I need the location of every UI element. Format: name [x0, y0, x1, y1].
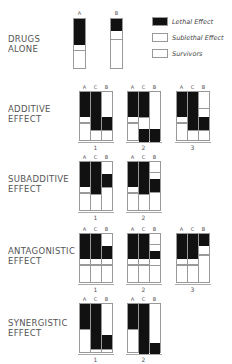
column-header: B: [101, 296, 112, 302]
legend-label: Survivors: [172, 50, 202, 58]
lethal-segment: [102, 335, 112, 349]
survivor-divider: [91, 349, 101, 350]
survivor-divider: [139, 194, 149, 195]
panel-baseline: [126, 142, 162, 143]
column-header: C: [90, 154, 101, 160]
panel-baseline: [126, 284, 162, 285]
survivor-divider: [199, 130, 209, 131]
lethal-segment: [139, 162, 149, 194]
row-label-2: EFFECT: [8, 328, 41, 338]
lethal-segment: [139, 234, 149, 259]
column-header: B: [198, 226, 209, 232]
lethal-segment: [199, 234, 209, 246]
column-header: A: [176, 84, 187, 90]
lethal-segment: [188, 92, 198, 130]
column-header: B: [149, 84, 160, 90]
column-header: C: [138, 226, 149, 232]
column-header: A: [127, 154, 138, 160]
panel-number: 3: [176, 144, 209, 151]
survivor-divider: [150, 192, 160, 193]
panel-column: [149, 91, 161, 141]
panel-column: [101, 91, 113, 141]
row-label-2: EFFECT: [8, 256, 41, 266]
lethal-segment: [80, 162, 90, 187]
panel-number: 1: [79, 356, 112, 363]
column-header: A: [79, 84, 90, 90]
survivor-divider: [80, 265, 90, 266]
lethal-segment: [177, 92, 187, 117]
column-header: C: [187, 226, 198, 232]
row-label: SYNERGISTIC: [8, 318, 68, 328]
survivor-divider: [102, 187, 112, 188]
legend-swatch: [152, 33, 168, 42]
lethal-segment: [91, 162, 101, 194]
survivor-divider: [128, 193, 138, 194]
legend-label: Lethal Effect: [172, 18, 213, 26]
survivor-divider: [128, 265, 138, 266]
lethal-segment: [128, 162, 138, 187]
sublethal-divider: [150, 172, 160, 173]
lethal-segment: [80, 304, 90, 329]
survivor-divider: [80, 123, 90, 124]
column-header: B: [101, 154, 112, 160]
panel-number: 2: [127, 356, 160, 363]
panel-column: [149, 233, 161, 283]
column-header: B: [101, 226, 112, 232]
survivor-divider: [102, 349, 112, 350]
panel-baseline: [175, 142, 211, 143]
lethal-segment: [150, 251, 160, 259]
column-header: C: [90, 296, 101, 302]
panel-number: 1: [79, 144, 112, 151]
column-header: A: [176, 226, 187, 232]
bar-header: A: [74, 10, 85, 16]
lethal-segment: [177, 234, 187, 259]
row-label-drugs-alone: DRUGS: [8, 34, 40, 44]
row-label-2: EFFECT: [8, 184, 41, 194]
panel-baseline: [78, 142, 114, 143]
drug-bar: [110, 18, 123, 69]
survivor-divider: [177, 265, 187, 266]
row-label: ANTAGONISTIC: [8, 246, 75, 256]
column-header: C: [138, 296, 149, 302]
lethal-segment: [188, 234, 198, 259]
lethal-segment: [80, 234, 90, 259]
panel-baseline: [78, 284, 114, 285]
column-header: B: [101, 84, 112, 90]
survivor-divider: [91, 265, 101, 266]
survivor-divider: [80, 329, 90, 330]
survivor-divider: [80, 193, 90, 194]
panel-column: [149, 303, 161, 353]
sublethal-divider: [150, 244, 160, 245]
lethal-segment: [102, 117, 112, 130]
sublethal-divider: [199, 108, 209, 109]
lethal-segment: [91, 92, 101, 130]
panel-column: [101, 233, 113, 283]
column-header: B: [149, 296, 160, 302]
panel-baseline: [78, 354, 114, 355]
lethal-segment: [128, 304, 138, 329]
column-header: A: [79, 226, 90, 232]
panel-number: 1: [79, 214, 112, 221]
survivor-divider: [199, 255, 209, 256]
column-header: A: [127, 84, 138, 90]
lethal-segment: [80, 92, 90, 117]
column-header: B: [149, 154, 160, 160]
panel-baseline: [126, 354, 162, 355]
survivor-divider: [188, 265, 198, 266]
panel-baseline: [78, 212, 114, 213]
panel-column: [101, 161, 113, 211]
survivor-divider: [177, 123, 187, 124]
sublethal-segment: [74, 45, 85, 51]
survivor-divider: [91, 130, 101, 131]
legend-label: Sublethal Effect: [172, 34, 224, 42]
row-label-drugs-alone-2: ALONE: [8, 44, 38, 54]
column-header: A: [79, 296, 90, 302]
survivor-divider: [128, 329, 138, 330]
row-label: ADDITIVE: [8, 104, 51, 114]
column-header: C: [138, 84, 149, 90]
column-header: C: [90, 226, 101, 232]
survivor-divider: [128, 123, 138, 124]
lethal-segment: [150, 129, 160, 142]
panel-number: 3: [176, 286, 209, 293]
lethal-segment: [139, 304, 149, 354]
